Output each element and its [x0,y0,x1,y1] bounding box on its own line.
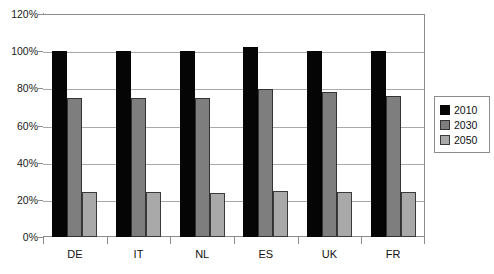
x-tick-mark [107,237,108,244]
bar-IT-2010[interactable] [116,51,131,237]
bar-UK-2010[interactable] [307,51,322,237]
y-tick-mark [37,51,43,52]
bar-group [298,14,362,237]
y-tick-mark [37,126,43,127]
bar-DE-2050[interactable] [82,192,97,237]
x-tick-label-ES: ES [234,247,298,261]
bar-NL-2050[interactable] [210,193,225,237]
y-tick-label: 60% [0,120,38,131]
bar-ES-2010[interactable] [243,47,258,237]
y-tick-label: 80% [0,83,38,94]
bars-layer [43,14,425,237]
bar-IT-2030[interactable] [131,98,146,237]
bar-group [107,14,171,237]
x-axis-labels: DEITNLESUKFR [43,247,425,265]
y-tick-mark [37,14,43,15]
legend-swatch-2030-icon [440,120,450,130]
bar-UK-2050[interactable] [337,192,352,237]
x-tick-mark [170,237,171,244]
x-tick-mark [424,237,425,244]
y-tick-mark [37,88,43,89]
bar-UK-2030[interactable] [322,92,337,237]
x-tick-label-IT: IT [107,247,171,261]
legend: 2010 2030 2050 [434,96,490,153]
bar-FR-2030[interactable] [386,96,401,237]
legend-label-2050: 2050 [454,134,477,146]
bar-ES-2030[interactable] [258,89,273,237]
bar-group [234,14,298,237]
legend-item[interactable]: 2010 [440,102,485,117]
bar-group [170,14,234,237]
bar-group [43,14,107,237]
bar-DE-2030[interactable] [67,98,82,237]
legend-item[interactable]: 2050 [440,132,485,147]
x-tick-mark [234,237,235,244]
y-tick-label: 40% [0,157,38,168]
y-tick-label: 120% [0,9,38,20]
legend-swatch-2050-icon [440,135,450,145]
bar-ES-2050[interactable] [273,191,288,237]
y-tick-label: 0% [0,232,38,243]
y-tick-mark [37,163,43,164]
legend-label-2010: 2010 [454,104,477,116]
y-tick-mark [37,237,43,238]
x-tick-label-FR: FR [361,247,425,261]
y-tick-label: 20% [0,194,38,205]
bar-DE-2010[interactable] [52,51,67,237]
bar-chart: 0%20%40%60%80%100%120% DEITNLESUKFR 2010… [0,0,494,274]
legend-swatch-2010-icon [440,105,450,115]
bar-FR-2010[interactable] [371,51,386,237]
y-tick-label: 100% [0,46,38,57]
x-axis-ticks [43,237,425,245]
bar-NL-2010[interactable] [180,51,195,237]
x-tick-mark [43,237,44,244]
legend-label-2030: 2030 [454,119,477,131]
x-tick-mark [298,237,299,244]
bar-NL-2030[interactable] [195,98,210,237]
x-tick-mark [361,237,362,244]
legend-item[interactable]: 2030 [440,117,485,132]
y-tick-mark [37,200,43,201]
x-tick-label-UK: UK [298,247,362,261]
bar-IT-2050[interactable] [146,192,161,237]
bar-group [361,14,425,237]
y-axis: 0%20%40%60%80%100%120% [0,0,38,274]
bar-FR-2050[interactable] [401,192,416,237]
x-tick-label-NL: NL [170,247,234,261]
x-tick-label-DE: DE [43,247,107,261]
